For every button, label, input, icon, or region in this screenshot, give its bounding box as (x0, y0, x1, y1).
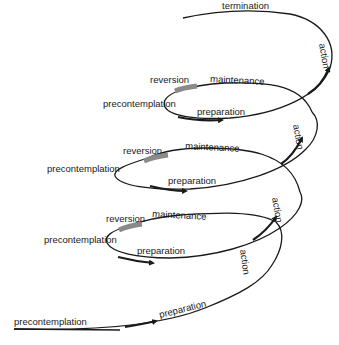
loop-1-precontemplation-label: precontemplation (44, 234, 117, 245)
loop-2-reversion-label: reversion (123, 145, 162, 156)
loop-1-maintenance-label: maintenance (152, 208, 207, 222)
loop-2-maintenance-label: maintenance (185, 140, 240, 154)
loop-2-preparation-label: preparation (168, 175, 216, 186)
termination-label: termination (222, 0, 269, 11)
loop-1-action-label: action (270, 196, 285, 223)
entry-precontemplation-label: precontemplation (14, 316, 87, 327)
loop-3-reversion-bar (175, 86, 197, 91)
loop-3-action-arrow (308, 68, 329, 94)
loop-1-reversion-bar (119, 224, 142, 230)
loop-3-reversion-label: reversion (150, 74, 189, 85)
loop-3-maintenance-label: maintenance (210, 73, 265, 87)
spiral-of-change-diagram: precontemplation preparation action reve… (0, 0, 339, 345)
loop-1-reversion-label: reversion (106, 213, 145, 224)
exit-segment: termination (222, 0, 269, 11)
loop-3-precontemplation-label: precontemplation (103, 98, 176, 109)
loop-1-preparation-label: preparation (137, 245, 185, 256)
spiral-loop-1: reversion maintenance precontemplation p… (44, 192, 302, 263)
spiral-loop-2: reversion maintenance precontemplation p… (47, 112, 317, 192)
loop-3-action-label: action (317, 42, 332, 69)
loop-1-direction-arrow (118, 257, 153, 263)
spiral-loop-3: reversion maintenance precontemplation p… (103, 11, 332, 121)
entry-direction-arrow (125, 321, 156, 327)
loop-2-precontemplation-label: precontemplation (47, 163, 120, 174)
entry-action-label: action (238, 249, 252, 276)
loop-3-preparation-label: preparation (197, 106, 245, 117)
entry-preparation-label: preparation (158, 298, 207, 320)
